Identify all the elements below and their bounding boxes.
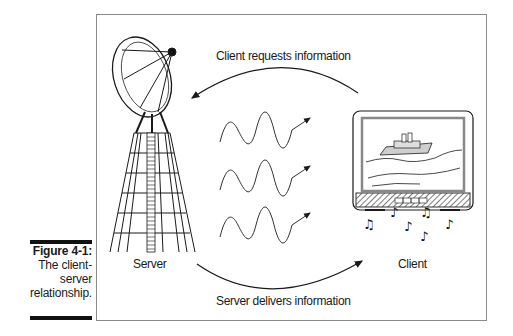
server-tower-icon bbox=[103, 29, 195, 252]
signal-waves-icon bbox=[220, 112, 310, 243]
svg-text:♫: ♫ bbox=[363, 217, 375, 232]
svg-text:♪: ♪ bbox=[404, 219, 412, 234]
request-arrow bbox=[192, 68, 358, 98]
server-label: Server bbox=[133, 257, 167, 271]
svg-text:♪: ♪ bbox=[420, 229, 428, 244]
svg-text:♪: ♪ bbox=[390, 205, 398, 220]
deliver-arrow bbox=[197, 261, 362, 289]
client-label: Client bbox=[398, 257, 428, 271]
deliver-label: Server delivers information bbox=[216, 294, 351, 308]
request-label: Client requests information bbox=[216, 49, 351, 63]
svg-text:♫: ♫ bbox=[420, 205, 432, 220]
client-server-diagram: Client requests information Server deliv… bbox=[0, 0, 513, 336]
svg-text:♪: ♪ bbox=[445, 217, 453, 232]
client-tv-icon bbox=[353, 111, 473, 210]
